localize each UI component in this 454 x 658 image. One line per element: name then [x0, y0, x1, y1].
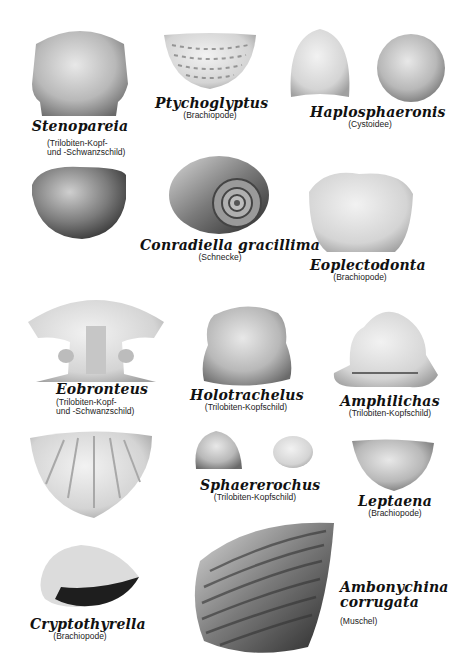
cryptothyrella-label: Cryptothyrella (Brachiopode)	[30, 617, 130, 642]
ptychoglyptus-image	[162, 31, 258, 91]
eobronteus-desc: (Trilobiten-Kopf- und -Schwanzschild)	[56, 398, 134, 417]
eobronteus-label: Eobronteus	[56, 382, 136, 397]
sphaererochus-image-2	[271, 434, 315, 470]
fossil-name: Stenopareia	[28, 119, 132, 134]
haplosphaeronis-label: Haplosphaeronis (Cystoidee)	[310, 105, 430, 130]
cryptothyrella-image	[37, 543, 141, 611]
eoplectodonta-image	[305, 168, 415, 254]
ambonychina-label: Ambonychina corrugata (Muschel)	[340, 580, 449, 626]
eoplectodonta-label: Eoplectodonta (Brachiopode)	[310, 258, 410, 283]
amphilichas-image	[330, 305, 440, 391]
conradiella-label: Conradiella gracillima (Schnecke)	[140, 238, 300, 263]
ambonychina-image	[190, 521, 338, 655]
haplosphaeronis-side-image	[287, 27, 353, 103]
sphaererochus-image-1	[192, 429, 244, 473]
stenopareia-tail-image	[30, 165, 128, 241]
holotrachelus-label: Holotrachelus (Trilobiten-Kopfschild)	[190, 388, 302, 413]
haplosphaeronis-top-image	[375, 32, 447, 104]
sphaererochus-label: Sphaererochus (Trilobiten-Kopfschild)	[200, 478, 310, 503]
conradiella-image	[165, 153, 271, 235]
ribbed-brachiopod-image	[28, 428, 154, 520]
stenopareia-label: Stenopareia	[28, 119, 132, 134]
ptychoglyptus-label: Ptychoglyptus (Brachiopode)	[155, 96, 265, 121]
stenopareia-head-image	[28, 24, 132, 118]
eobronteus-image	[26, 286, 166, 386]
stenopareia-desc: (Trilobiten-Kopf- und -Schwanzschild)	[47, 139, 125, 158]
holotrachelus-image	[198, 303, 294, 387]
amphilichas-label: Amphilichas (Trilobiten-Kopfschild)	[335, 394, 445, 419]
leptaena-image	[350, 437, 436, 493]
leptaena-label: Leptaena (Brachiopode)	[355, 494, 435, 519]
